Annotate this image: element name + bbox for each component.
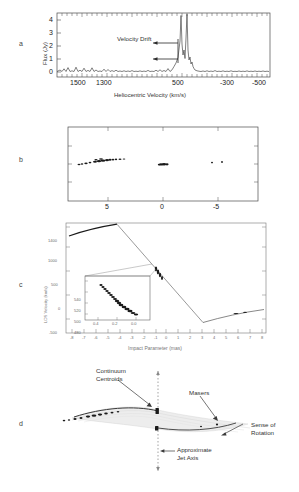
sense-of-rotation-label-line1: Sense of (251, 421, 275, 429)
panel-a: a (0, 0, 299, 118)
panel-c-inset-ytick-540: 540 (74, 297, 81, 302)
continuum-centroids-arrow (118, 380, 152, 407)
panel-c: c (0, 218, 299, 358)
panel-c-ytick-0: 0 (58, 306, 60, 311)
panel-b-xtick-m5: -5 (213, 203, 219, 210)
continuum-centroids-label-line1: Continuum (96, 367, 126, 375)
panel-c-xtick--6: -6 (94, 335, 98, 340)
panel-c-xtick-5: 5 (225, 335, 227, 340)
systemic-masers-c (155, 267, 163, 280)
panel-c-inset (85, 264, 156, 320)
panel-c-ytick-1400: 1400 (48, 238, 57, 243)
panel-a-xlabel: Heliocentric Velocity (km/s) (114, 92, 186, 98)
panel-c-xtick--2: -2 (142, 335, 146, 340)
panel-c-ytick-500: 500 (51, 282, 58, 287)
panel-a-ytick-1: 1 (49, 55, 53, 62)
velocity-drift-arrows (153, 39, 178, 63)
panel-c-inset-ytick-480: 480 (74, 330, 81, 335)
panel-c-xtick--3: -3 (130, 335, 134, 340)
panel-c-xtick-1: 1 (177, 335, 179, 340)
panel-b-plot (0, 118, 299, 218)
panel-c-inset-ytick-520: 520 (74, 308, 81, 313)
panel-b: b (0, 118, 299, 218)
panel-c-ylabel: LOS Velocity (km/s) (43, 286, 48, 323)
panel-c-letter: c (19, 281, 23, 288)
panel-c-xtick-7: 7 (249, 335, 251, 340)
panel-b-letter: b (19, 156, 23, 163)
jet-axis-arrow (160, 449, 175, 453)
panel-c-xtick-6: 6 (237, 335, 239, 340)
panel-c-xtick--1: -1 (154, 335, 158, 340)
panel-c-xtick-8: 8 (261, 335, 263, 340)
panel-c-ytick-1000: 1000 (48, 258, 57, 263)
panel-c-xtick--5: -5 (106, 335, 110, 340)
panel-a-xtick-1300: 1300 (96, 79, 112, 86)
approximate-jet-axis-label-line2: Jet Axis (177, 454, 198, 462)
panel-d-letter: d (19, 420, 23, 427)
velocity-drift-label: Velocity Drift (117, 35, 151, 43)
masers-label: Masers (189, 389, 209, 397)
figure-container: a (0, 0, 299, 492)
panel-c-inset-ytick-500: 500 (74, 319, 81, 324)
maser-spots-systemic (158, 163, 169, 166)
panel-a-xtick-m300: -300 (220, 79, 234, 86)
maser-spots-low-velocity (211, 161, 223, 163)
panel-a-ytick-0: 0 (49, 68, 53, 75)
panel-a-ylabel: Flux (Jy) (42, 42, 48, 65)
panel-c-inset-xtick-04: 0.4 (93, 321, 99, 326)
panel-c-xtick--7: -7 (82, 335, 86, 340)
panel-c-xtick-3: 3 (201, 335, 203, 340)
panel-c-xtick-0: 0 (165, 335, 167, 340)
panel-c-inset-xtick-00: 0.0 (131, 321, 137, 326)
panel-c-xtick-4: 4 (213, 335, 215, 340)
approximate-jet-axis-label-line1: Approximate (177, 446, 212, 454)
panel-a-ytick-4: 4 (49, 16, 53, 23)
panel-c-xlabel: Impact Parameter (mas) (128, 345, 182, 351)
maser-spots-high-velocity (78, 158, 126, 165)
sense-of-rotation-label-line2: Rotation (251, 429, 274, 437)
panel-a-ytick-2: 2 (49, 42, 53, 49)
panel-b-xtick-0: 0 (160, 203, 164, 210)
panel-c-ytick-m500: -500 (49, 330, 57, 335)
masers-arrow (200, 396, 218, 421)
panel-a-letter: a (19, 40, 23, 47)
panel-b-xtick-5: 5 (105, 203, 109, 210)
panel-a-xtick-500: 500 (172, 79, 184, 86)
continuum-centroids-label-line2: Centroids (96, 375, 122, 383)
panel-c-xtick-2: 2 (189, 335, 191, 340)
panel-d: d (0, 358, 299, 492)
panel-a-xtick-m500: -500 (252, 79, 266, 86)
panel-a-xtick-1500: 1500 (70, 79, 86, 86)
panel-a-ytick-3: 3 (49, 29, 53, 36)
panel-c-xtick--4: -4 (118, 335, 122, 340)
panel-c-inset-xtick-02: 0.2 (112, 321, 118, 326)
panel-c-xtick--8: -8 (70, 335, 74, 340)
